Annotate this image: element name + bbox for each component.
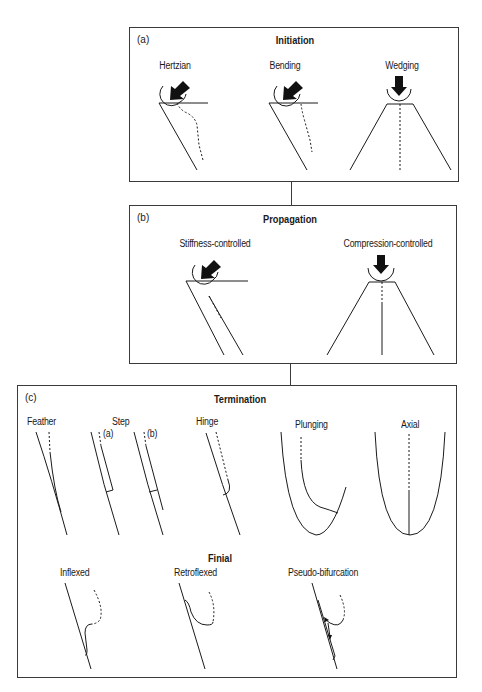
stiffness-controlled-figure [186,260,248,355]
force-arrow-icon [373,255,389,274]
compression-controlled-figure [327,255,434,355]
force-arrow-icon [283,81,303,100]
diagram-artwork [0,0,482,692]
hinge-figure [206,432,240,535]
feather-figure [36,432,67,535]
plunging-figure [281,432,346,535]
hertzian-figure [159,81,208,170]
force-arrow-icon [170,81,190,100]
force-arrow-icon [201,260,221,279]
retroflexed-figure [179,583,214,669]
wedging-figure [350,76,451,170]
step-a-figure [91,432,119,535]
force-arrow-icon [391,76,407,96]
step-b-figure [134,432,163,535]
bending-figure [269,81,318,170]
axial-figure [375,432,445,535]
pseudo-bifurcation-figure [312,583,344,669]
inflexed-figure [65,583,101,669]
